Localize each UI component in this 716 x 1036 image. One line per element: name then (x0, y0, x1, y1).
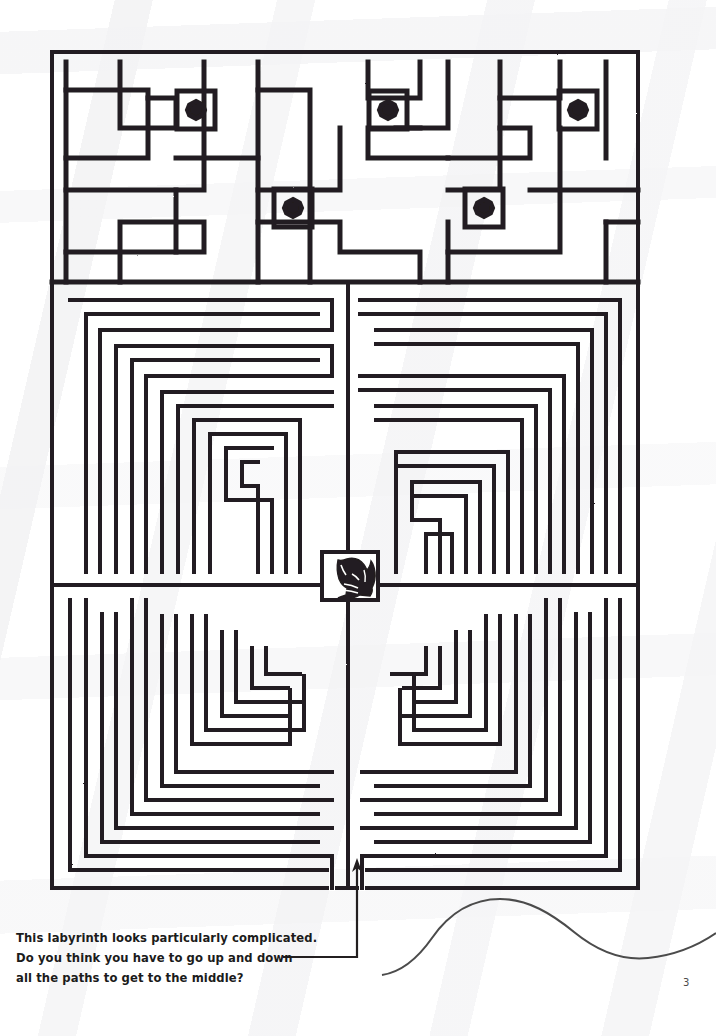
quadrant-bottom-right (362, 600, 620, 870)
bottom-wave-rule (382, 899, 716, 975)
caption-line-1: This labyrinth looks particularly compli… (16, 928, 306, 948)
caption-line-2: Do you think you have to go up and down (16, 948, 306, 968)
quadrant-top-left (70, 300, 332, 572)
quadrant-top-right (360, 300, 620, 572)
caption-line-3: all the paths to get to the middle? (16, 968, 306, 988)
labyrinth-illustration (0, 0, 716, 1036)
caption-text: This labyrinth looks particularly compli… (16, 928, 306, 988)
page-canvas: This labyrinth looks particularly compli… (0, 0, 716, 1036)
quadrant-bottom-left (70, 600, 332, 870)
center-goal-box (322, 552, 378, 600)
labyrinth-svg (0, 0, 716, 1036)
page-number: 3 (683, 977, 689, 988)
